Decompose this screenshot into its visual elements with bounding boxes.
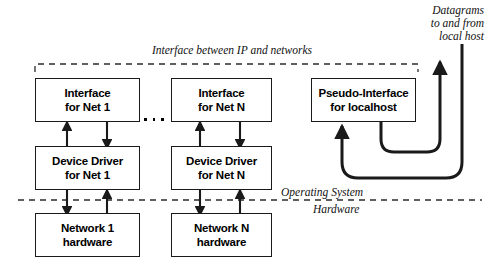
box-interface-net-1[interactable]: Interface for Net 1 bbox=[35, 78, 140, 122]
diagram-canvas: Interface for Net 1 Interface for Net N … bbox=[0, 0, 499, 268]
box-pseudo-interface-line2: for localhost bbox=[330, 100, 396, 114]
annotation-datagrams-line2: to and from bbox=[358, 17, 484, 30]
box-network-n-hardware-line1: Network N bbox=[194, 221, 249, 235]
box-interface-net-1-line2: for Net 1 bbox=[65, 100, 110, 114]
box-interface-net-1-line1: Interface bbox=[64, 86, 110, 100]
box-pseudo-interface-line1: Pseudo-Interface bbox=[318, 86, 408, 100]
box-network-1-hardware-line2: hardware bbox=[63, 235, 113, 249]
ellipsis-dot bbox=[153, 118, 156, 121]
box-device-driver-net-n-line1: Device Driver bbox=[186, 154, 257, 168]
box-interface-net-n[interactable]: Interface for Net N bbox=[171, 78, 272, 122]
box-device-driver-net-1-line2: for Net 1 bbox=[65, 168, 110, 182]
box-network-1-hardware-line1: Network 1 bbox=[61, 221, 114, 235]
annotation-datagrams-line3: local host bbox=[358, 30, 484, 43]
annotation-operating-system: Operating System bbox=[281, 186, 363, 199]
box-network-1-hardware[interactable]: Network 1 hardware bbox=[35, 213, 140, 257]
box-device-driver-net-1[interactable]: Device Driver for Net 1 bbox=[35, 146, 140, 190]
box-network-n-hardware[interactable]: Network N hardware bbox=[171, 213, 272, 257]
box-interface-net-n-line2: for Net N bbox=[198, 100, 245, 114]
box-device-driver-net-n-line2: for Net N bbox=[198, 168, 245, 182]
ellipsis-dot bbox=[144, 118, 147, 121]
annotation-ip-interface: Interface between IP and networks bbox=[127, 44, 337, 57]
box-pseudo-interface-localhost[interactable]: Pseudo-Interface for localhost bbox=[311, 78, 416, 122]
box-device-driver-net-1-line1: Device Driver bbox=[52, 154, 123, 168]
annotation-datagrams-line1: Datagrams bbox=[358, 4, 484, 17]
box-interface-net-n-line1: Interface bbox=[198, 86, 244, 100]
box-device-driver-net-n[interactable]: Device Driver for Net N bbox=[171, 146, 272, 190]
box-network-n-hardware-line2: hardware bbox=[197, 235, 247, 249]
ip-interface-dashed-boundary bbox=[35, 64, 418, 72]
ellipsis-between-columns bbox=[144, 118, 164, 121]
annotation-datagrams: Datagrams to and from local host bbox=[358, 4, 484, 43]
ellipsis-dot bbox=[161, 118, 164, 121]
annotation-hardware: Hardware bbox=[313, 203, 359, 216]
